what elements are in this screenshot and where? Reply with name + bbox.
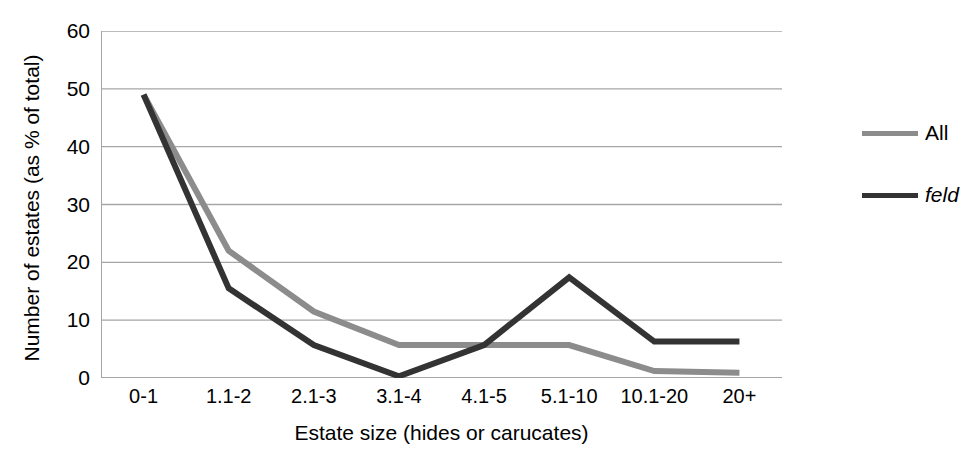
legend-item: feld	[862, 180, 959, 210]
legend-color-swatch	[862, 193, 918, 198]
gridlines	[101, 31, 782, 320]
x-axis-tick-label: 0-1	[129, 386, 158, 406]
legend-color-swatch	[862, 131, 918, 136]
y-axis-tick-label: 0	[44, 367, 90, 388]
series-lines	[144, 95, 740, 377]
series-line	[144, 95, 740, 373]
x-axis-tick-labels: 0-11.1-22.1-33.1-44.1-55.1-1010.1-2020+	[101, 386, 782, 416]
x-axis-tick-label: 10.1-20	[620, 386, 688, 406]
x-axis-tick-label: 2.1-3	[291, 386, 337, 406]
x-axis-tick-label: 3.1-4	[376, 386, 422, 406]
y-axis-tick-labels: 6050403020100	[38, 0, 90, 465]
plot-svg	[101, 31, 782, 378]
legend-item: All	[862, 118, 959, 148]
x-axis-title: Estate size (hides or carucates)	[101, 421, 782, 445]
chart-container: Number of estates (as % of total) 605040…	[0, 0, 973, 465]
y-axis-tick-label: 20	[44, 251, 90, 272]
series-line	[144, 95, 740, 377]
x-axis-tick-label: 1.1-2	[206, 386, 252, 406]
x-axis-tick-label: 20+	[722, 386, 756, 406]
x-axis-tick-label: 5.1-10	[541, 386, 598, 406]
y-axis-tick-label: 40	[44, 136, 90, 157]
x-axis-tick-label: 4.1-5	[461, 386, 507, 406]
y-axis-tick-label: 10	[44, 309, 90, 330]
legend-label: All	[925, 121, 948, 145]
y-axis-tick-label: 60	[44, 20, 90, 41]
legend-label: feld	[925, 183, 959, 207]
chart-legend: Allfeld	[862, 118, 959, 242]
y-axis-tick-label: 30	[44, 194, 90, 215]
y-axis-tick-label: 50	[44, 78, 90, 99]
plot-area	[101, 31, 782, 378]
